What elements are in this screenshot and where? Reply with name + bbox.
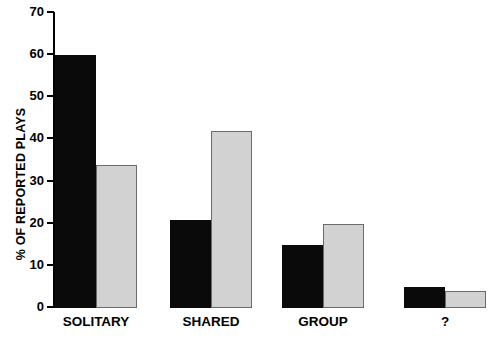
y-axis-tick-mark xyxy=(47,306,54,308)
x-axis-label-solitary: SOLITARY xyxy=(45,313,147,331)
y-axis-tick-mark xyxy=(47,95,54,97)
y-axis-tick-label: 30 xyxy=(30,172,44,190)
plot-area xyxy=(54,12,494,308)
y-axis-tick-mark xyxy=(47,53,54,55)
y-axis-tick-mark xyxy=(47,11,54,13)
y-axis-tick-mark xyxy=(47,180,54,182)
y-axis-title: % OF REPORTED PLAYS xyxy=(11,59,31,309)
y-axis-tick-label: 50 xyxy=(30,87,44,105)
bar-shared-series-2-gray xyxy=(211,131,252,308)
bar--series-1-black xyxy=(404,287,445,308)
y-axis-tick-label: 60 xyxy=(30,45,44,63)
bar-group-series-1-black xyxy=(282,245,323,308)
y-axis-tick-mark xyxy=(47,222,54,224)
x-axis-label-: ? xyxy=(394,313,494,331)
x-axis-label-shared: SHARED xyxy=(160,313,262,331)
bar-solitary-series-1-black xyxy=(55,55,96,308)
bar-group-series-2-gray xyxy=(323,224,364,308)
bar-chart: % OF REPORTED PLAYS 010203040506070 SOLI… xyxy=(0,0,494,339)
y-axis-tick-mark xyxy=(47,264,54,266)
bar-solitary-series-2-gray xyxy=(96,165,137,308)
bar--series-2-gray xyxy=(445,291,486,308)
y-axis-tick-label: 70 xyxy=(30,3,44,21)
bar-shared-series-1-black xyxy=(170,220,211,309)
y-axis-tick-label: 40 xyxy=(30,129,44,147)
x-axis-label-group: GROUP xyxy=(272,313,374,331)
y-axis-tick-label: 10 xyxy=(30,256,44,274)
y-axis-tick-label: 0 xyxy=(37,298,44,316)
y-axis-tick-label: 20 xyxy=(30,214,44,232)
y-axis-tick-mark xyxy=(47,137,54,139)
